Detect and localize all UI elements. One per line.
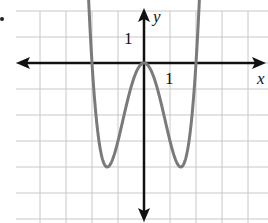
- function-graph: [0, 0, 268, 223]
- y-tick-label: 1: [124, 30, 133, 47]
- x-axis-label: x: [257, 70, 265, 87]
- grid-lines: [16, 11, 268, 223]
- y-axis-label: y: [153, 8, 161, 25]
- x-tick-label: 1: [165, 70, 174, 87]
